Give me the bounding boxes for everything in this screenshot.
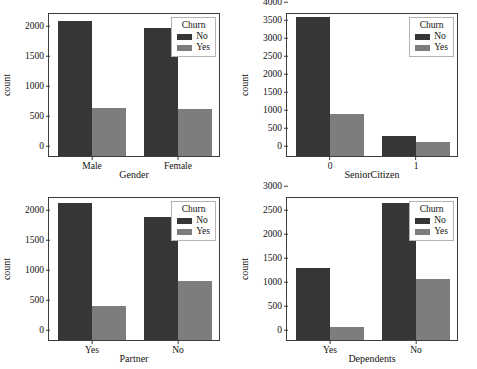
- y-tick-label: 0: [39, 326, 49, 336]
- legend-gender[interactable]: ChurnNoYes: [171, 17, 216, 57]
- x-axis-label-partner: Partner: [48, 354, 220, 364]
- bar-seniorcitizen-0-Yes: [330, 114, 364, 156]
- plot-area-gender: 0500100015002000MaleFemaleChurnNoYes: [48, 13, 220, 157]
- y-tick-label: 1500: [25, 52, 49, 62]
- y-tick-label: 1000: [25, 82, 49, 92]
- legend-seniorcitizen[interactable]: ChurnNoYes: [409, 17, 454, 57]
- legend-dependents[interactable]: ChurnNoYes: [409, 201, 454, 241]
- y-tick-label: 2000: [25, 22, 49, 32]
- y-tick-label: 1500: [263, 88, 287, 98]
- bar-seniorcitizen-1-No: [382, 136, 416, 156]
- legend-label: No: [196, 31, 208, 42]
- y-tick-label: 1000: [25, 266, 49, 276]
- y-tick-label: 500: [268, 124, 287, 134]
- legend-label: Yes: [434, 42, 448, 53]
- legend-swatch-icon: [415, 45, 430, 51]
- legend-label: Yes: [196, 226, 210, 237]
- legend-title: Churn: [415, 204, 448, 215]
- legend-swatch-icon: [415, 229, 430, 235]
- legend-item-yes[interactable]: Yes: [415, 42, 448, 53]
- y-tick-label: 0: [39, 142, 49, 152]
- legend-item-yes[interactable]: Yes: [177, 226, 210, 237]
- legend-swatch-icon: [415, 218, 430, 224]
- legend-label: No: [434, 31, 446, 42]
- legend-partner[interactable]: ChurnNoYes: [171, 201, 216, 241]
- x-axis-label-gender: Gender: [48, 170, 220, 180]
- panel-partner: 0500100015002000YesNoChurnNoYesPartnerco…: [0, 184, 238, 368]
- y-tick-label: 1000: [263, 106, 287, 116]
- legend-label: Yes: [196, 42, 210, 53]
- y-tick-label: 500: [30, 112, 49, 122]
- bar-seniorcitizen-0-No: [296, 17, 330, 156]
- y-tick-label: 1000: [263, 278, 287, 288]
- legend-item-no[interactable]: No: [177, 31, 210, 42]
- x-axis-label-seniorcitizen: SeniorCitizen: [286, 170, 458, 180]
- bar-dependents-Yes-No: [296, 268, 330, 340]
- bar-partner-No-Yes: [178, 281, 212, 340]
- y-tick-label: 500: [30, 296, 49, 306]
- legend-item-yes[interactable]: Yes: [177, 42, 210, 53]
- y-tick-label: 1500: [263, 254, 287, 264]
- y-tick-label: 2000: [263, 70, 287, 80]
- legend-item-no[interactable]: No: [415, 31, 448, 42]
- y-axis-label-dependents: count: [240, 258, 250, 280]
- y-tick-label: 500: [268, 302, 287, 312]
- legend-title: Churn: [177, 20, 210, 31]
- legend-item-yes[interactable]: Yes: [415, 226, 448, 237]
- y-axis-label-seniorcitizen: count: [240, 74, 250, 96]
- bar-partner-Yes-No: [58, 203, 92, 340]
- bar-gender-Female-Yes: [178, 109, 212, 156]
- legend-swatch-icon: [177, 45, 192, 51]
- y-tick-label: 3000: [263, 34, 287, 44]
- y-tick-label: 2000: [263, 230, 287, 240]
- panel-dependents: 050010001500200025003000YesNoChurnNoYesD…: [238, 184, 476, 368]
- bar-dependents-No-Yes: [416, 279, 450, 340]
- y-tick-label: 3500: [263, 16, 287, 26]
- y-tick-label: 2500: [263, 206, 287, 216]
- plot-area-seniorcitizen: 0500100015002000250030003500400001ChurnN…: [286, 13, 458, 157]
- legend-label: No: [434, 215, 446, 226]
- legend-swatch-icon: [415, 34, 430, 40]
- y-axis-label-gender: count: [2, 74, 12, 96]
- bar-dependents-Yes-Yes: [330, 327, 364, 340]
- bar-gender-Male-No: [58, 21, 92, 156]
- panel-seniorcitizen: 0500100015002000250030003500400001ChurnN…: [238, 0, 476, 184]
- bar-seniorcitizen-1-Yes: [416, 142, 450, 156]
- legend-swatch-icon: [177, 218, 192, 224]
- y-tick-label: 2500: [263, 52, 287, 62]
- bar-partner-Yes-Yes: [92, 306, 126, 340]
- figure-canvas: 0500100015002000MaleFemaleChurnNoYesGend…: [0, 0, 477, 369]
- legend-label: No: [196, 215, 208, 226]
- y-tick-label: 0: [277, 142, 287, 152]
- legend-label: Yes: [434, 226, 448, 237]
- legend-swatch-icon: [177, 229, 192, 235]
- legend-item-no[interactable]: No: [415, 215, 448, 226]
- plot-area-dependents: 050010001500200025003000YesNoChurnNoYes: [286, 197, 458, 341]
- y-tick-label: 1500: [25, 236, 49, 246]
- plot-area-partner: 0500100015002000YesNoChurnNoYes: [48, 197, 220, 341]
- y-tick-label: 0: [277, 326, 287, 336]
- legend-swatch-icon: [177, 34, 192, 40]
- y-axis-label-partner: count: [2, 258, 12, 280]
- legend-item-no[interactable]: No: [177, 215, 210, 226]
- panel-gender: 0500100015002000MaleFemaleChurnNoYesGend…: [0, 0, 238, 184]
- y-tick-label: 3000: [263, 182, 287, 192]
- legend-title: Churn: [177, 204, 210, 215]
- x-axis-label-dependents: Dependents: [286, 354, 458, 364]
- bar-gender-Male-Yes: [92, 108, 126, 156]
- legend-title: Churn: [415, 20, 448, 31]
- y-tick-label: 4000: [263, 0, 287, 7]
- y-tick-label: 2000: [25, 206, 49, 216]
